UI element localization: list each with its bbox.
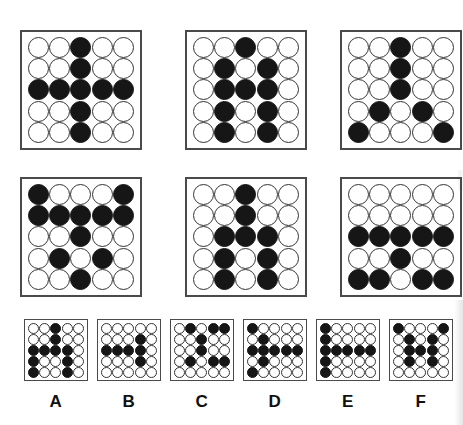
grid-cell bbox=[219, 367, 230, 378]
grid-cell bbox=[438, 367, 449, 378]
empty-dot-icon bbox=[415, 334, 426, 345]
filled-dot-icon bbox=[123, 345, 134, 356]
grid-cell bbox=[113, 269, 134, 290]
empty-dot-icon bbox=[185, 367, 196, 378]
grid-cell bbox=[258, 334, 269, 345]
empty-dot-icon bbox=[348, 37, 369, 58]
grid-cell bbox=[70, 101, 91, 122]
filled-dot-icon bbox=[393, 323, 404, 334]
filled-dot-icon bbox=[101, 345, 112, 356]
filled-dot-icon bbox=[331, 345, 342, 356]
grid-cell bbox=[354, 367, 365, 378]
empty-dot-icon bbox=[235, 101, 256, 122]
option-a[interactable] bbox=[24, 319, 88, 381]
grid-cell bbox=[49, 184, 70, 205]
grid-cell bbox=[393, 323, 404, 334]
empty-dot-icon bbox=[73, 345, 84, 356]
empty-dot-icon bbox=[433, 37, 454, 58]
grid-cell bbox=[438, 345, 449, 356]
grid-cell bbox=[281, 334, 292, 345]
filled-dot-icon bbox=[247, 345, 258, 356]
grid-cell bbox=[393, 345, 404, 356]
grid-cell bbox=[427, 356, 438, 367]
grid-cell bbox=[92, 101, 113, 122]
grid-cell bbox=[101, 345, 112, 356]
matrix-panel-4 bbox=[20, 177, 142, 297]
empty-dot-icon bbox=[28, 323, 39, 334]
option-e[interactable] bbox=[316, 319, 380, 381]
grid-cell bbox=[281, 345, 292, 356]
empty-dot-icon bbox=[196, 356, 207, 367]
filled-dot-icon bbox=[62, 367, 73, 378]
empty-dot-icon bbox=[49, 37, 70, 58]
empty-dot-icon bbox=[433, 248, 454, 269]
empty-dot-icon bbox=[415, 323, 426, 334]
filled-dot-icon bbox=[348, 269, 369, 290]
empty-dot-icon bbox=[101, 323, 112, 334]
grid-cell bbox=[415, 345, 426, 356]
grid-cell bbox=[257, 37, 278, 58]
filled-dot-icon bbox=[113, 205, 134, 226]
filled-dot-icon bbox=[235, 79, 256, 100]
empty-dot-icon bbox=[49, 101, 70, 122]
option-d[interactable] bbox=[243, 319, 307, 381]
grid-cell bbox=[113, 37, 134, 58]
empty-dot-icon bbox=[174, 367, 185, 378]
filled-dot-icon bbox=[427, 345, 438, 356]
grid-cell bbox=[70, 226, 91, 247]
empty-dot-icon bbox=[433, 205, 454, 226]
empty-dot-icon bbox=[70, 248, 91, 269]
filled-dot-icon bbox=[390, 58, 411, 79]
grid-cell bbox=[433, 205, 454, 226]
empty-dot-icon bbox=[278, 205, 299, 226]
filled-dot-icon bbox=[70, 37, 91, 58]
option-c[interactable] bbox=[170, 319, 234, 381]
empty-dot-icon bbox=[214, 37, 235, 58]
grid-cell bbox=[73, 334, 84, 345]
grid-cell bbox=[438, 334, 449, 345]
filled-dot-icon bbox=[214, 226, 235, 247]
filled-dot-icon bbox=[70, 269, 91, 290]
grid-cell bbox=[70, 248, 91, 269]
grid-cell bbox=[365, 367, 376, 378]
empty-dot-icon bbox=[415, 367, 426, 378]
filled-dot-icon bbox=[214, 122, 235, 143]
empty-dot-icon bbox=[348, 205, 369, 226]
grid-cell bbox=[281, 323, 292, 334]
empty-dot-icon bbox=[369, 58, 390, 79]
empty-dot-icon bbox=[50, 367, 61, 378]
grid-cell bbox=[70, 205, 91, 226]
empty-dot-icon bbox=[433, 58, 454, 79]
empty-dot-icon bbox=[146, 356, 157, 367]
grid-cell bbox=[28, 345, 39, 356]
empty-dot-icon bbox=[369, 79, 390, 100]
grid-cell bbox=[404, 323, 415, 334]
grid-cell bbox=[412, 248, 433, 269]
empty-dot-icon bbox=[390, 122, 411, 143]
empty-dot-icon bbox=[393, 356, 404, 367]
grid-cell bbox=[92, 205, 113, 226]
grid-cell bbox=[28, 367, 39, 378]
empty-dot-icon bbox=[112, 356, 123, 367]
empty-dot-icon bbox=[348, 248, 369, 269]
grid-cell bbox=[70, 58, 91, 79]
empty-dot-icon bbox=[257, 184, 278, 205]
option-b[interactable] bbox=[97, 319, 161, 381]
filled-dot-icon bbox=[390, 37, 411, 58]
grid-cell bbox=[433, 184, 454, 205]
grid-cell bbox=[112, 323, 123, 334]
grid-cell bbox=[269, 367, 280, 378]
grid-cell bbox=[28, 184, 49, 205]
grid-cell bbox=[320, 356, 331, 367]
empty-dot-icon bbox=[185, 334, 196, 345]
grid-cell bbox=[113, 101, 134, 122]
grid-cell bbox=[404, 367, 415, 378]
grid-cell bbox=[415, 367, 426, 378]
empty-dot-icon bbox=[146, 367, 157, 378]
option-f[interactable] bbox=[389, 319, 453, 381]
empty-dot-icon bbox=[70, 184, 91, 205]
grid-cell bbox=[101, 367, 112, 378]
grid-cell bbox=[28, 122, 49, 143]
empty-dot-icon bbox=[101, 356, 112, 367]
grid-cell bbox=[390, 205, 411, 226]
